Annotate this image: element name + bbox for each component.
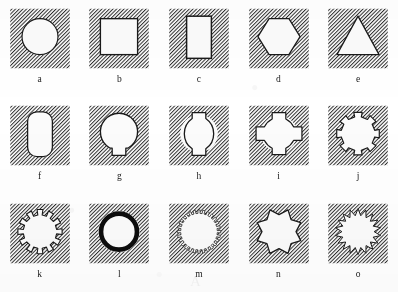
- circular-hole: [9, 7, 71, 70]
- triangular-hole: [327, 7, 389, 70]
- hexagonal-hole: [248, 7, 310, 70]
- keyhole-hole: [88, 104, 150, 167]
- panel-cell-a: a: [0, 0, 80, 97]
- panel-label-j: j: [357, 171, 360, 182]
- fine-tooth-gear-hole: [168, 202, 230, 265]
- zigzag-star-hole: [327, 202, 389, 265]
- figure-root: a b: [0, 0, 398, 292]
- panel-label-n: n: [276, 269, 281, 280]
- panel-cell-n: n: [239, 195, 319, 292]
- panel-cell-l: l: [80, 195, 160, 292]
- panel-cell-b: b: [80, 0, 160, 97]
- panel-label-a: a: [38, 74, 42, 85]
- square-hole: [88, 7, 150, 70]
- panel-cell-e: e: [318, 0, 398, 97]
- panel-cell-f: f: [0, 97, 80, 194]
- four-keyway-hole: [248, 104, 310, 167]
- eight-keyway-hole: [327, 104, 389, 167]
- panel-cell-d: d: [239, 0, 319, 97]
- panel-label-h: h: [197, 171, 202, 182]
- panel-label-c: c: [197, 74, 201, 85]
- panel-cell-g: g: [80, 97, 160, 194]
- two-keyway-hole: [168, 104, 230, 167]
- panel-cell-i: i: [239, 97, 319, 194]
- panel-label-d: d: [276, 74, 281, 85]
- panel-cell-m: m: [159, 195, 239, 292]
- eight-point-star-hole: [248, 202, 310, 265]
- panel-label-k: k: [37, 269, 42, 280]
- panel-label-g: g: [117, 171, 122, 182]
- panel-cell-c: c: [159, 0, 239, 97]
- panel-cell-k: k: [0, 195, 80, 292]
- panel-cell-j: j: [318, 97, 398, 194]
- panel-label-b: b: [117, 74, 122, 85]
- panel-cell-h: h: [159, 97, 239, 194]
- panel-label-e: e: [356, 74, 360, 85]
- twelve-tooth-gear-hole: [9, 202, 71, 265]
- panel-label-f: f: [38, 171, 41, 182]
- panel-label-o: o: [356, 269, 361, 280]
- thick-walled-ring: [88, 202, 150, 265]
- panel-label-m: m: [195, 269, 203, 280]
- panel-label-l: l: [118, 269, 121, 280]
- panel-label-i: i: [277, 171, 280, 182]
- panel-cell-o: o: [318, 195, 398, 292]
- panel-grid: a b: [0, 0, 398, 292]
- vertical-rectangular-hole: [168, 7, 230, 70]
- rounded-rectangular-hole: [9, 104, 71, 167]
